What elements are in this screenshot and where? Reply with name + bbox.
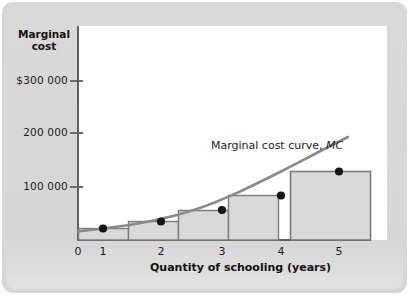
data-point-2	[157, 217, 165, 225]
figure-container: Marginal cost $300 000 200 000 100 000	[0, 0, 413, 300]
bars-group	[79, 172, 371, 241]
curve-annotation-symbol: MC	[326, 139, 343, 152]
data-point-3	[218, 206, 226, 214]
x-tick-label-4: 4	[269, 245, 293, 258]
curve-annotation: Marginal cost curve, MC	[211, 139, 343, 152]
bar-3	[179, 211, 229, 241]
bar-4	[229, 196, 279, 241]
data-point-5	[335, 167, 343, 175]
x-tick-label-2: 2	[149, 245, 173, 258]
bar-5	[291, 172, 371, 241]
chart-graphics	[0, 0, 413, 300]
data-point-4	[277, 191, 285, 199]
x-tick-label-0: 0	[66, 245, 90, 258]
x-tick-label-3: 3	[210, 245, 234, 258]
data-point-1	[99, 224, 107, 232]
curve-annotation-text: Marginal cost curve,	[211, 139, 323, 152]
x-tick-label-1: 1	[91, 245, 115, 258]
x-axis-title: Quantity of schooling (years)	[150, 261, 380, 274]
x-tick-label-5: 5	[327, 245, 351, 258]
